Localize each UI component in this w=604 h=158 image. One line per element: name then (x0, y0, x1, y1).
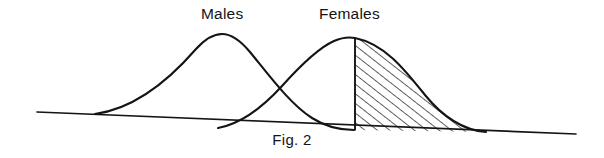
figure-2-container: Males Females Fig. 2 (0, 0, 604, 158)
males-curve-label: Males (201, 6, 243, 22)
females-curve-label: Females (319, 6, 380, 22)
figure-caption: Fig. 2 (0, 132, 604, 147)
figure-caption-text: Fig. 2 (272, 132, 311, 147)
